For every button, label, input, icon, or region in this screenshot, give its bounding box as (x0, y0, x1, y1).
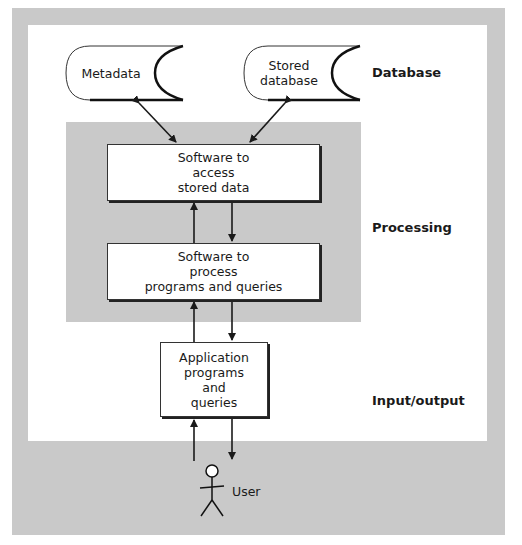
stored-database-label: Stored database (246, 50, 332, 96)
application-programs-box: Application programs and queries (160, 342, 268, 417)
metadata-link-arrow (139, 103, 176, 142)
metadata-label: Metadata (68, 50, 154, 96)
tier-label-processing: Processing (372, 220, 452, 235)
tier-label-database: Database (372, 65, 441, 80)
user-label: User (232, 484, 261, 499)
process-software-box: Software to process programs and queries (107, 243, 320, 300)
tier-label-io: Input/output (372, 393, 465, 408)
access-software-box: Software to access stored data (107, 144, 320, 201)
user-icon (200, 465, 224, 516)
database-link-arrow (250, 103, 285, 142)
